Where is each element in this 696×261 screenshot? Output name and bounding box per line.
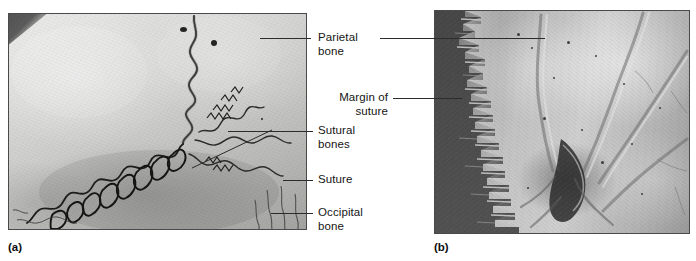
leader-line-parietal-left	[260, 38, 311, 39]
sem-speck	[553, 77, 555, 79]
figure-cranial-sutures: Parietal bone Margin of suture Sutural b…	[0, 0, 696, 261]
sem-speck	[527, 187, 529, 189]
leader-line-suture	[283, 180, 313, 181]
sem-speck	[595, 55, 597, 57]
sem-speck	[543, 117, 546, 120]
photo-speck	[180, 27, 187, 32]
leader-line-margin-of-suture	[393, 98, 462, 99]
panel-a-gross-photograph	[8, 13, 307, 230]
sem-speck	[631, 143, 633, 145]
label-occipital-bone: Occipital bone	[318, 206, 380, 233]
label-sutural-bones: Sutural bones	[318, 124, 380, 151]
label-margin-of-suture: Margin of suture	[316, 91, 388, 118]
photo-speck	[261, 118, 263, 120]
leader-line-occipital-bone	[271, 213, 313, 214]
panel-letter-b: (b)	[434, 241, 449, 253]
panel-b-electron-micrograph	[434, 10, 690, 234]
sem-speck	[517, 33, 520, 36]
sem-speck	[581, 129, 583, 131]
panel-letter-a: (a)	[8, 241, 22, 253]
label-parietal-bone: Parietal bone	[318, 31, 376, 58]
sem-speck	[567, 41, 570, 44]
sem-speck	[641, 193, 643, 195]
sem-speck	[601, 161, 604, 164]
sem-speck	[531, 47, 533, 49]
leader-line-parietal-right	[380, 38, 545, 39]
sem-speck	[623, 83, 625, 85]
sem-noise	[435, 11, 689, 233]
leader-line-sutural-bones-diagonal	[190, 128, 274, 170]
photo-film-grain	[9, 14, 306, 229]
sem-speck	[659, 107, 661, 109]
label-suture: Suture	[318, 173, 380, 187]
photo-speck	[211, 40, 217, 46]
